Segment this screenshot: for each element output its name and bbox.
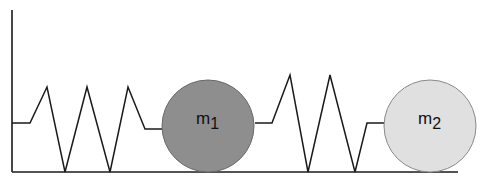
spring-2 <box>255 75 384 172</box>
spring-1 <box>12 87 162 172</box>
spring-mass-diagram: m1 m2 <box>0 0 484 179</box>
